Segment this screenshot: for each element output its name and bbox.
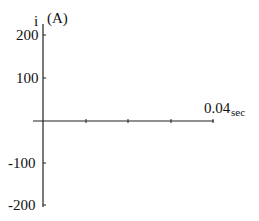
y-tick-200: 200 — [16, 28, 39, 43]
y-tick-neg100: -100 — [8, 156, 36, 171]
y-tick-neg200: -200 — [8, 198, 36, 213]
x-end-value: 0.04 — [204, 101, 230, 116]
y-axis-unit: (A) — [47, 11, 68, 26]
x-unit: sec — [231, 105, 245, 120]
y-tick-100: 100 — [16, 71, 39, 86]
